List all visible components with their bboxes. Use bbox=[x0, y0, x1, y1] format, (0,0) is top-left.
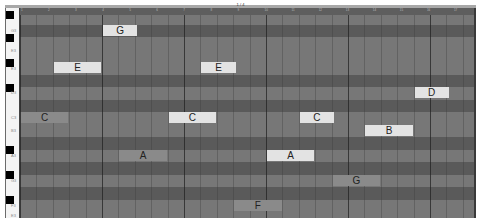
ruler-tick: 9 bbox=[237, 8, 239, 12]
ruler-tick: 13 bbox=[346, 8, 349, 12]
timeline-ruler[interactable]: 1234567891011121314151617 bbox=[19, 8, 474, 15]
key-label: C3 bbox=[11, 115, 16, 120]
note-block[interactable]: E bbox=[201, 62, 235, 73]
pitch-row bbox=[20, 100, 474, 112]
note-block[interactable]: G bbox=[103, 25, 137, 36]
key-label: G3 bbox=[11, 178, 16, 183]
note-block[interactable]: E bbox=[54, 62, 101, 73]
pitch-row bbox=[20, 150, 474, 162]
beat-gridline bbox=[381, 15, 382, 218]
pitch-row bbox=[20, 212, 474, 218]
pitch-row bbox=[20, 112, 474, 125]
ruler-tick: 10 bbox=[265, 8, 268, 12]
piano-keyboard[interactable]: G3E3E3D3C3B3A3G3F3E3 bbox=[6, 8, 20, 218]
ruler-tick: 5 bbox=[129, 8, 131, 12]
key-label: E3 bbox=[11, 213, 16, 218]
key-label: E3 bbox=[11, 48, 16, 53]
beat-gridline bbox=[364, 15, 365, 218]
pitch-row bbox=[20, 50, 474, 62]
pitch-row bbox=[20, 137, 474, 150]
beat-gridline bbox=[217, 15, 218, 218]
beat-gridline bbox=[430, 15, 431, 218]
ruler-tick: 14 bbox=[373, 8, 376, 12]
ruler-tick: 7 bbox=[183, 8, 185, 12]
beat-gridline bbox=[69, 15, 70, 218]
ruler-tick: 1 bbox=[21, 8, 23, 12]
pitch-row bbox=[20, 175, 474, 187]
ruler-tick: 2 bbox=[48, 8, 50, 12]
beat-gridline bbox=[151, 15, 152, 218]
key-label: F3 bbox=[11, 203, 16, 208]
ruler-tick: 6 bbox=[156, 8, 158, 12]
note-block[interactable]: A bbox=[267, 150, 314, 161]
key-label: G3 bbox=[11, 28, 16, 33]
beat-gridline bbox=[414, 15, 415, 218]
beat-gridline bbox=[446, 15, 447, 218]
ruler-tick: 4 bbox=[102, 8, 104, 12]
key-label: D3 bbox=[11, 90, 16, 95]
key-label: E3 bbox=[11, 66, 16, 71]
beat-gridline bbox=[102, 15, 103, 218]
beat-gridline bbox=[348, 15, 349, 218]
beat-gridline bbox=[266, 15, 267, 218]
note-block[interactable]: G bbox=[333, 175, 380, 186]
key-label: A3 bbox=[11, 153, 16, 158]
note-block[interactable]: C bbox=[300, 112, 334, 123]
beat-gridline bbox=[463, 15, 464, 218]
note-block[interactable]: F bbox=[234, 200, 281, 211]
pitch-row bbox=[20, 15, 474, 25]
key-label: B3 bbox=[11, 128, 16, 133]
note-block[interactable]: C bbox=[21, 112, 68, 123]
piano-roll-editor: 1 / 4 1234567891011121314151617 G3E3E3D3… bbox=[5, 5, 476, 218]
black-key[interactable] bbox=[6, 34, 14, 42]
beat-gridline bbox=[282, 15, 283, 218]
window-title: 1 / 4 bbox=[5, 2, 476, 7]
note-block[interactable]: C bbox=[169, 112, 216, 123]
ruler-tick: 12 bbox=[319, 8, 322, 12]
pitch-row bbox=[20, 87, 474, 100]
vertical-scrollbar[interactable] bbox=[474, 8, 476, 218]
note-grid[interactable]: GEEDCCCBAAGF bbox=[20, 15, 474, 218]
pitch-row bbox=[20, 162, 474, 175]
note-block[interactable]: A bbox=[119, 150, 166, 161]
beat-gridline bbox=[233, 15, 234, 218]
beat-gridline bbox=[250, 15, 251, 218]
black-key[interactable] bbox=[6, 11, 14, 19]
pitch-row bbox=[20, 75, 474, 87]
beat-gridline bbox=[135, 15, 136, 218]
ruler-tick: 15 bbox=[400, 8, 403, 12]
pitch-row bbox=[20, 25, 474, 37]
ruler-tick: 8 bbox=[210, 8, 212, 12]
beat-gridline bbox=[86, 15, 87, 218]
beat-gridline bbox=[397, 15, 398, 218]
ruler-tick: 11 bbox=[292, 8, 295, 12]
pitch-row bbox=[20, 37, 474, 50]
ruler-tick: 17 bbox=[454, 8, 457, 12]
note-block[interactable]: B bbox=[365, 125, 412, 136]
note-block[interactable]: D bbox=[415, 87, 449, 98]
ruler-tick: 16 bbox=[427, 8, 430, 12]
beat-gridline bbox=[118, 15, 119, 218]
pitch-row bbox=[20, 187, 474, 200]
ruler-tick: 3 bbox=[75, 8, 77, 12]
